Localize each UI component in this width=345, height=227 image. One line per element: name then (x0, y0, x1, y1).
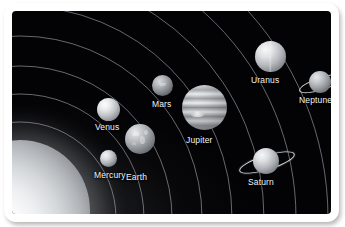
label-earth: Earth (126, 172, 147, 182)
planet-saturn (253, 148, 279, 174)
planet-uranus (255, 41, 286, 72)
planet-mercury (100, 150, 117, 167)
planet-earth (125, 124, 155, 154)
label-mercury: Mercury (94, 170, 126, 180)
planet-mars (152, 75, 173, 96)
label-uranus: Uranus (251, 75, 279, 85)
image-card-frame: Mercury Venus Earth Mars Jupiter Saturn … (4, 3, 339, 222)
planet-neptune (309, 71, 331, 93)
label-neptune: Neptune (299, 95, 331, 105)
solar-system-illustration: Mercury Venus Earth Mars Jupiter Saturn … (12, 11, 331, 214)
label-venus: Venus (95, 122, 119, 132)
label-saturn: Saturn (248, 177, 274, 187)
screenshot-root: Mercury Venus Earth Mars Jupiter Saturn … (0, 0, 345, 227)
planet-venus (97, 98, 120, 121)
label-mars: Mars (152, 99, 172, 109)
label-jupiter: Jupiter (186, 135, 213, 145)
planet-jupiter (182, 85, 227, 130)
